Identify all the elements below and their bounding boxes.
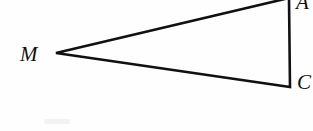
background-artifact: [44, 119, 70, 124]
triangle-outline: [56, 0, 290, 87]
triangle-diagram: M A C: [0, 0, 313, 131]
triangle-shape: [0, 0, 313, 131]
vertex-label-a: A: [296, 0, 309, 13]
vertex-label-c: C: [297, 72, 311, 93]
vertex-label-m: M: [20, 44, 38, 65]
